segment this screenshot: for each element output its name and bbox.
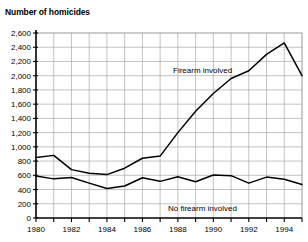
y-tick-label: 1,000 [11,143,32,152]
x-tick-label: 1982 [63,225,81,234]
x-tick-label: 1988 [169,225,187,234]
line-chart-svg: 02004006008001,0001,2001,4001,6001,8002,… [0,0,308,242]
y-tick-label: 200 [18,200,32,209]
firearm-involved-label: Firearm involved [173,66,232,75]
y-tick-label: 2,000 [11,72,32,81]
plot-area-wrapper: 02004006008001,0001,2001,4001,6001,8002,… [0,0,308,242]
x-tick-label: 1994 [275,225,293,234]
x-axis-tick-labels: 19801982198419861988199019921994 [27,225,294,234]
x-tick-label: 1984 [98,225,116,234]
x-tick-label: 1986 [134,225,152,234]
data-series-lines [36,43,302,189]
series-line [36,43,302,175]
y-axis-tick-labels: 02004006008001,0001,2001,4001,6001,8002,… [11,29,32,223]
y-tick-label: 1,800 [11,86,32,95]
y-tick-label: 0 [27,214,32,223]
x-tick-label: 1980 [27,225,45,234]
series-annotations: Firearm involvedNo firearm involved [168,66,237,213]
y-tick-label: 2,600 [11,29,32,38]
y-tick-label: 1,600 [11,100,32,109]
x-tick-label: 1990 [204,225,222,234]
x-tick-label: 1992 [240,225,258,234]
series-line [36,175,302,189]
y-tick-label: 1,400 [11,114,32,123]
y-tick-label: 400 [18,186,32,195]
no-firearm-involved-label: No firearm involved [168,204,237,213]
y-tick-label: 800 [18,157,32,166]
y-tick-label: 600 [18,171,32,180]
chart-container: Number of homicides 02004006008001,0001,… [0,0,308,242]
vertical-gridlines [36,33,302,218]
y-tick-label: 2,400 [11,43,32,52]
y-tick-label: 1,200 [11,129,32,138]
y-tick-label: 2,200 [11,57,32,66]
